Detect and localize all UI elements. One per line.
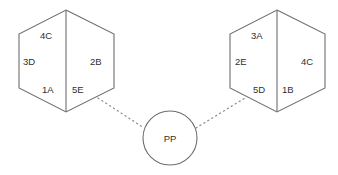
connector-right (196, 98, 245, 128)
left-hexagon-label-middle-right: 2B (90, 56, 102, 67)
right-hexagon-label-bottom-left: 5D (253, 84, 265, 95)
diagram-svg: 4C 3D 1A 2B 5E 3A 2E 5D 4C 1B PP (0, 0, 338, 175)
left-hexagon[interactable]: 4C 3D 1A 2B 5E (19, 10, 114, 112)
left-hexagon-label-bottom-left: 1A (42, 84, 54, 95)
right-hexagon-label-middle-left: 2E (235, 56, 247, 67)
right-hexagon-label-top-left: 3A (251, 30, 263, 41)
right-hexagon-label-bottom-right: 1B (282, 84, 294, 95)
connector-left (98, 98, 144, 128)
left-hexagon-label-top-left: 4C (40, 30, 52, 41)
left-hexagon-label-bottom-right: 5E (72, 84, 84, 95)
hub-circle-label: PP (164, 133, 177, 144)
hub-circle[interactable]: PP (143, 111, 197, 165)
left-hexagon-label-middle-left: 3D (23, 56, 35, 67)
right-hexagon-label-middle-right: 4C (301, 56, 313, 67)
diagram-canvas: 4C 3D 1A 2B 5E 3A 2E 5D 4C 1B PP (0, 0, 338, 175)
right-hexagon[interactable]: 3A 2E 5D 4C 1B (230, 10, 325, 112)
